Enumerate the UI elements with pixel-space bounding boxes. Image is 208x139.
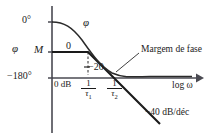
break-freq-2-subscript: 2 (114, 93, 117, 100)
slope-40-leader-line (133, 98, 143, 107)
break-freq-2-denominator: τ2 (107, 88, 122, 101)
slope-minus-20-label: −20 (88, 62, 104, 72)
break-freq-1-denominator: τ1 (81, 88, 96, 101)
zero-db-label: 0 dB (54, 80, 71, 89)
break-frequency-2-label: 1 τ2 (107, 79, 122, 101)
slope-minus-40-label: −40 dB/déc (145, 108, 189, 118)
phase-axis-label: φ (12, 43, 18, 54)
magnitude-flat-segment-label: 0 (66, 41, 71, 51)
x-axis-label: log ω (172, 81, 193, 91)
break-frequency-1-label: 1 τ1 (81, 79, 96, 101)
horizontal-axis-arrowhead (196, 74, 204, 83)
phase-margin-label: Margem de fase (141, 45, 202, 55)
phase-margin-leader-line (116, 53, 139, 72)
break-freq-2-numerator: 1 (107, 79, 122, 88)
break-freq-1-numerator: 1 (81, 79, 96, 88)
y-tick-label-minus-180-degrees: −180° (7, 71, 32, 81)
y-tick-label-0-degrees: 0° (22, 15, 31, 25)
break-freq-1-subscript: 1 (88, 93, 91, 100)
magnitude-axis-label: M (34, 44, 43, 55)
bode-plot-figure: 0° −180° φ M 0 φ −20 0 dB Margem de fase… (0, 0, 208, 139)
phase-curve-label: φ (83, 17, 89, 28)
